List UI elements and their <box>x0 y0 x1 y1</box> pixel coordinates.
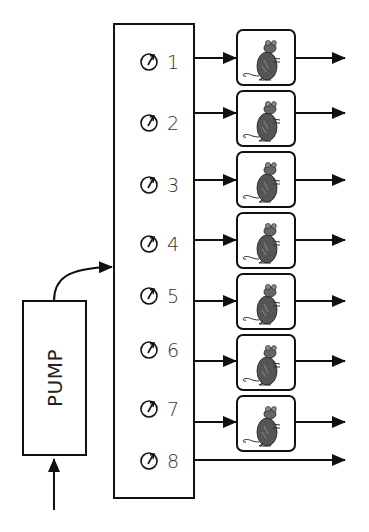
channel-8: 8 <box>141 450 345 472</box>
channel-number: 6 <box>167 339 179 361</box>
channel-number: 7 <box>167 398 179 420</box>
perfusion-diagram: 12345678 <box>0 0 369 532</box>
channel-number: 4 <box>167 233 179 255</box>
channel-number: 1 <box>167 51 179 73</box>
pump-to-manifold-arrow <box>54 267 112 301</box>
channel-number: 5 <box>167 285 179 307</box>
manifold-box <box>114 24 194 498</box>
pump-label: PUMP <box>43 349 67 407</box>
channel-number: 8 <box>167 450 179 472</box>
channel-number: 3 <box>167 174 179 196</box>
channel-number: 2 <box>167 112 179 134</box>
